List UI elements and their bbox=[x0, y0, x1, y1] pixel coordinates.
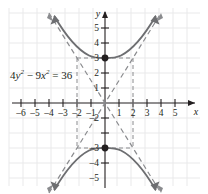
x-tick-label: 4 bbox=[159, 108, 164, 118]
x-tick-label: –3 bbox=[57, 108, 68, 118]
y-tick-label: –4 bbox=[89, 158, 100, 168]
y-tick-label: 5 bbox=[94, 23, 99, 33]
x-tick-label: –4 bbox=[43, 108, 54, 118]
equation-exp-y: 2 bbox=[20, 68, 24, 76]
y-tick-label: 1 bbox=[94, 83, 99, 93]
y-axis-arrow bbox=[102, 11, 108, 18]
equation-annotation: 4y2 − 9x2 = 36 bbox=[10, 68, 72, 81]
y-tick-label: –3 bbox=[89, 143, 100, 153]
y-axis-label: y bbox=[95, 8, 101, 19]
y-tick-label: –2 bbox=[89, 113, 100, 123]
hyperbola-graph-figure: –6 –5 –4 –3 –2 –1 1 2 3 4 5 5 4 3 2 1 –2… bbox=[0, 0, 208, 194]
x-tick-label: 3 bbox=[145, 108, 150, 118]
equation-minus: − bbox=[27, 69, 33, 81]
y-tick-label: –5 bbox=[89, 173, 100, 183]
x-axis-label: x bbox=[193, 106, 199, 117]
y-tick-label: 4 bbox=[94, 38, 99, 48]
vertex-point-upper bbox=[102, 55, 109, 62]
x-tick-label: 5 bbox=[173, 108, 178, 118]
x-tick-label: –2 bbox=[71, 108, 82, 118]
equation-exp-x: 2 bbox=[46, 68, 50, 76]
x-tick-label: 1 bbox=[117, 108, 122, 118]
y-tick-label: 2 bbox=[94, 68, 99, 78]
x-tick-label: –5 bbox=[29, 108, 40, 118]
equation-rhs: 36 bbox=[61, 69, 72, 81]
x-tick-label: 2 bbox=[131, 108, 136, 118]
equation-equals: = bbox=[52, 69, 58, 81]
x-tick-label: –6 bbox=[15, 108, 26, 118]
graph-canvas: –6 –5 –4 –3 –2 –1 1 2 3 4 5 5 4 3 2 1 –2… bbox=[0, 0, 208, 194]
vertex-point-lower bbox=[102, 145, 109, 152]
y-tick-label: 3 bbox=[94, 53, 99, 63]
